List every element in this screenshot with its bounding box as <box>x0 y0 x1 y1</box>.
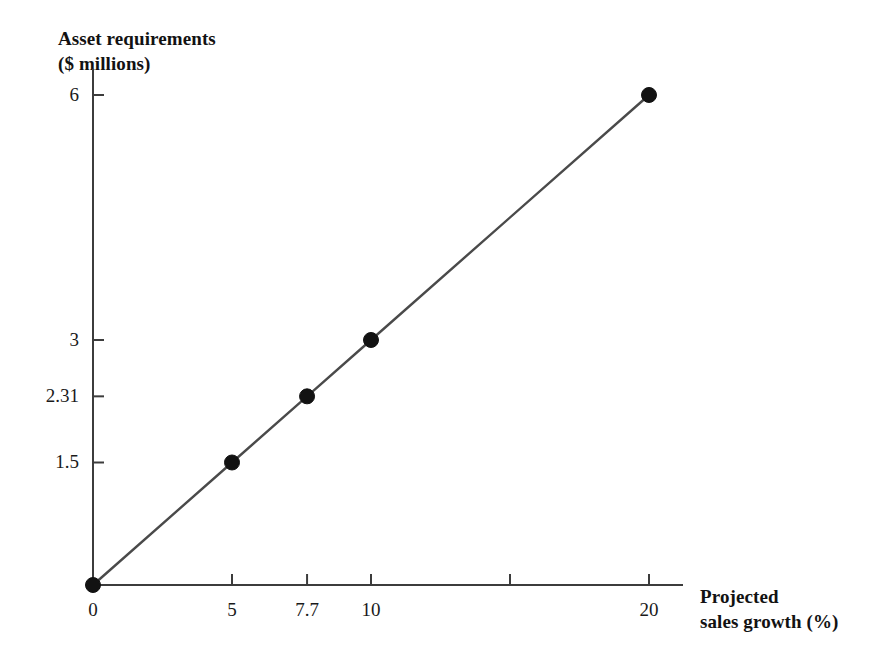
chart-figure: Asset requirements ($ millions) Projecte… <box>0 0 883 663</box>
x-tick-label: 0 <box>88 599 98 621</box>
x-tick-label: 20 <box>640 599 659 621</box>
data-point-marker <box>364 332 379 347</box>
x-tick-label: 10 <box>362 599 381 621</box>
data-point-marker <box>225 455 240 470</box>
y-tick-label: 6 <box>0 84 79 106</box>
y-tick-label: 1.5 <box>0 451 79 473</box>
data-point-marker <box>86 578 101 593</box>
data-point-marker <box>642 87 657 102</box>
x-tick-label: 7.7 <box>295 599 319 621</box>
y-tick-label: 2.31 <box>0 385 79 407</box>
data-point-marker <box>300 389 315 404</box>
x-tick-label: 5 <box>227 599 237 621</box>
plot-area <box>0 0 883 663</box>
y-tick-label: 3 <box>0 329 79 351</box>
